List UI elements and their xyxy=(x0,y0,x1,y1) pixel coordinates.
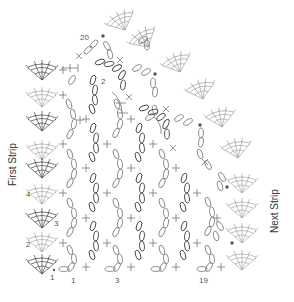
next-strip-fans xyxy=(226,173,258,270)
row-number-4: 4 xyxy=(26,190,31,199)
diagonal-edge-fans xyxy=(102,5,254,161)
inner-number-20: 20 xyxy=(80,33,89,42)
row-number-1: 1 xyxy=(50,273,55,282)
row-number-2: 2 xyxy=(26,240,31,249)
chain-arcs xyxy=(59,35,227,272)
column-number-19: 19 xyxy=(199,276,208,285)
inner-number-2: 2 xyxy=(101,77,106,86)
row-number-3: 3 xyxy=(54,219,59,228)
column-number-1: 1 xyxy=(71,276,76,285)
next-strip-label: Next Strip xyxy=(269,189,280,233)
column-number-3: 3 xyxy=(115,276,120,285)
crochet-diagram: First Strip Next Strip 4 3 2 1 1 3 19 20… xyxy=(0,0,294,302)
x-stitches xyxy=(76,53,208,165)
first-strip-label: First Strip xyxy=(7,143,18,186)
first-strip-fans xyxy=(26,60,58,274)
